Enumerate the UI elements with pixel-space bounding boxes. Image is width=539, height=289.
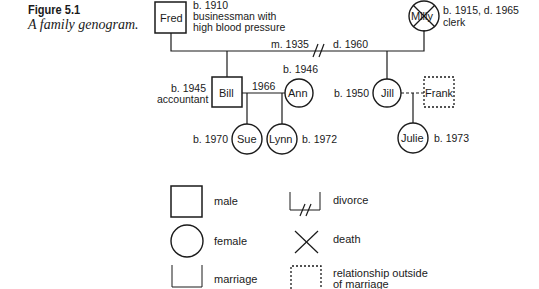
legend-death-label: death <box>333 233 361 245</box>
julie-birth: b. 1973 <box>434 132 469 144</box>
bill-name: Bill <box>219 87 234 99</box>
jill-birth: b. 1950 <box>334 87 369 99</box>
legend-female-label: female <box>214 235 247 247</box>
legend-marriage-icon <box>172 265 202 287</box>
sue-birth: b. 1970 <box>193 133 228 145</box>
legend-male-label: male <box>214 195 238 207</box>
legend-male-icon <box>171 186 202 217</box>
bill-ann-marriage-date: 1966 <box>252 80 276 92</box>
fred-name: Fred <box>160 12 183 24</box>
ann-name: Ann <box>288 87 308 99</box>
lynn-name: Lynn <box>269 133 292 145</box>
jill-name: Jill <box>381 87 394 99</box>
bill-occupation: accountant <box>157 93 208 105</box>
divorce-date: d. 1960 <box>333 38 368 50</box>
frank-name: Frank <box>425 87 454 99</box>
legend-outside-marriage-icon <box>291 266 321 289</box>
genogram-diagram: Fred Milly Bill Ann Jill Frank Sue Lynn … <box>0 0 539 289</box>
julie-name: Julie <box>401 132 424 144</box>
legend-outside-marriage-label-2: of marriage <box>333 278 389 289</box>
milly-occupation: clerk <box>443 16 466 28</box>
legend-female-icon <box>171 225 203 257</box>
legend-divorce-label: divorce <box>333 194 368 206</box>
fred-health: high blood pressure <box>193 21 285 33</box>
lynn-birth: b. 1972 <box>302 133 337 145</box>
legend-marriage-label: marriage <box>214 273 257 285</box>
ann-birth: b. 1946 <box>283 63 318 75</box>
sue-name: Sue <box>237 133 257 145</box>
marriage-date: m. 1935 <box>271 38 309 50</box>
milly-dates: b. 1915, d. 1965 <box>443 4 519 16</box>
milly-name: Milly <box>411 10 433 22</box>
legend-divorce-icon <box>290 192 320 210</box>
